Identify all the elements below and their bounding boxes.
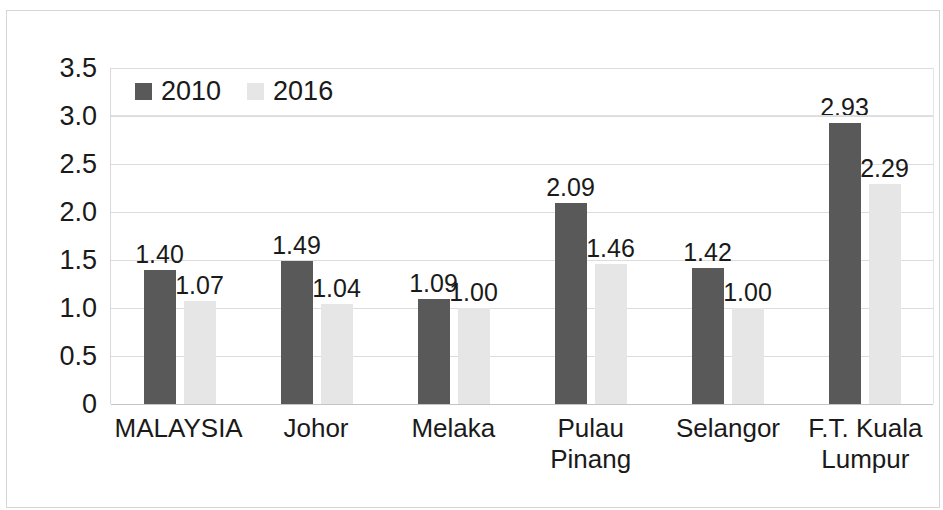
bar-value-label: 2.09	[546, 175, 595, 200]
bar-2016[interactable]: 1.00	[458, 308, 490, 404]
bar-2010[interactable]: 2.09	[555, 203, 587, 404]
bar-value-label: 1.07	[175, 273, 224, 298]
x-axis-category-label: F.T. Kuala Lumpur	[797, 413, 934, 474]
bar-2010[interactable]: 1.40	[144, 270, 176, 404]
bar-2016[interactable]: 1.07	[184, 301, 216, 404]
bar-groups: 1.401.071.491.041.091.002.091.461.421.00…	[111, 68, 933, 404]
bar-2010[interactable]: 1.49	[281, 261, 313, 404]
bar-value-label: 1.00	[449, 280, 498, 305]
legend-swatch-icon	[135, 83, 152, 100]
y-axis-tick-label: 2.5	[29, 151, 111, 178]
y-axis-tick-label: 1.5	[29, 247, 111, 274]
bar-pair: 1.491.04	[281, 68, 353, 404]
x-axis-category-label: Johor	[247, 413, 384, 474]
bar-pair: 1.401.07	[144, 68, 216, 404]
bar-pair: 1.421.00	[692, 68, 764, 404]
chart-frame: 3.53.02.52.01.51.00.50 1.401.071.491.041…	[6, 10, 940, 508]
bar-2010[interactable]: 2.93	[829, 123, 861, 404]
y-axis-tick-label: 3.5	[29, 55, 111, 82]
bar-value-label: 1.40	[135, 242, 184, 267]
bar-pair: 2.932.29	[829, 68, 901, 404]
bar-value-label: 1.04	[312, 276, 361, 301]
bar-group: 1.091.00	[385, 68, 522, 404]
bar-value-label: 2.29	[860, 156, 909, 181]
bar-2016[interactable]: 1.04	[321, 304, 353, 404]
gridline	[111, 404, 933, 405]
bar-2016[interactable]: 1.46	[595, 264, 627, 404]
bar-2016[interactable]: 1.00	[732, 308, 764, 404]
bar-2010[interactable]: 1.42	[692, 268, 724, 404]
bar-value-label: 1.42	[683, 240, 732, 265]
legend-label: 2016	[273, 78, 333, 105]
x-axis-labels: MALAYSIAJohorMelakaPulau PinangSelangorF…	[110, 413, 934, 474]
bar-group: 1.421.00	[659, 68, 796, 404]
bar-group: 1.491.04	[248, 68, 385, 404]
legend-swatch-icon	[247, 83, 264, 100]
bar-pair: 1.091.00	[418, 68, 490, 404]
x-axis-category-label: MALAYSIA	[110, 413, 247, 474]
legend-item-2010[interactable]: 2010	[135, 78, 221, 105]
legend-item-2016[interactable]: 2016	[247, 78, 333, 105]
bar-value-label: 1.46	[586, 236, 635, 261]
y-axis-tick-label: 2.0	[29, 199, 111, 226]
bar-value-label: 1.49	[272, 233, 321, 258]
y-axis-tick-label: 0	[29, 391, 111, 418]
bar-group: 2.091.46	[522, 68, 659, 404]
bar-2016[interactable]: 2.29	[869, 184, 901, 404]
y-axis-tick-label: 1.0	[29, 295, 111, 322]
bar-2010[interactable]: 1.09	[418, 299, 450, 404]
y-axis-tick-label: 0.5	[29, 343, 111, 370]
x-axis-category-label: Melaka	[385, 413, 522, 474]
bar-pair: 2.091.46	[555, 68, 627, 404]
chart-legend: 20102016	[111, 68, 933, 116]
plot-area: 3.53.02.52.01.51.00.50 1.401.071.491.041…	[110, 68, 934, 404]
x-axis-category-label: Selangor	[659, 413, 796, 474]
legend-label: 2010	[161, 78, 221, 105]
bar-value-label: 1.00	[723, 280, 772, 305]
bar-group: 2.932.29	[796, 68, 933, 404]
x-axis-category-label: Pulau Pinang	[522, 413, 659, 474]
y-axis-tick-label: 3.0	[29, 103, 111, 130]
bar-group: 1.401.07	[111, 68, 248, 404]
